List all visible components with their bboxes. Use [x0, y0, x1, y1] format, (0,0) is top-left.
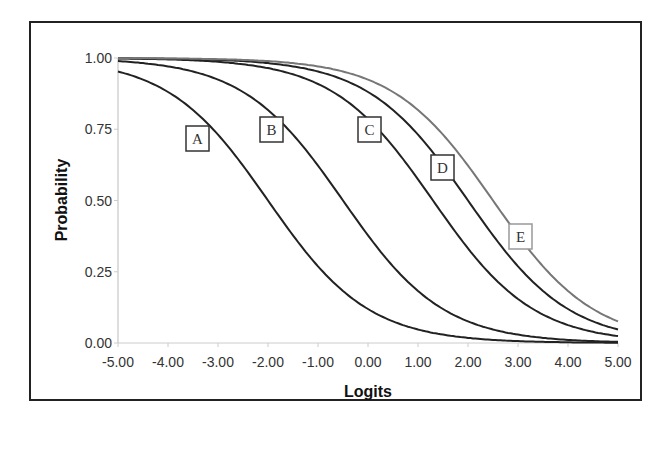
x-tick-label: -3.00: [202, 354, 234, 370]
x-tick-label: 4.00: [554, 354, 581, 370]
x-tick-label: 5.00: [604, 354, 631, 370]
svg-text:D: D: [437, 160, 448, 176]
x-tick-label: 3.00: [504, 354, 531, 370]
svg-text:E: E: [516, 229, 525, 245]
svg-text:C: C: [364, 122, 374, 138]
x-tick-label: 2.00: [454, 354, 481, 370]
x-tick-label: -5.00: [102, 354, 134, 370]
curve-label-b: B: [260, 117, 283, 142]
curve-label-d: D: [431, 155, 454, 180]
y-tick-label: 0.75: [85, 121, 112, 137]
x-tick-label: -4.00: [152, 354, 184, 370]
x-tick-label: -1.00: [302, 354, 334, 370]
curve-label-c: C: [358, 117, 381, 142]
x-tick-label: 0.00: [354, 354, 381, 370]
curve-label-e: E: [509, 224, 532, 249]
x-tick-label: 1.00: [404, 354, 431, 370]
y-tick-label: 1.00: [85, 50, 112, 66]
y-tick-label: 0.25: [85, 264, 112, 280]
x-tick-label: -2.00: [252, 354, 284, 370]
svg-text:A: A: [192, 131, 203, 147]
y-axis-title: Probability: [53, 159, 70, 242]
probability-curves-chart: -5.00-4.00-3.00-2.00-1.000.001.002.003.0…: [0, 0, 662, 451]
curve-label-a: A: [186, 126, 209, 151]
svg-text:B: B: [266, 122, 276, 138]
y-tick-label: 0.00: [85, 335, 112, 351]
x-axis-title: Logits: [344, 383, 392, 400]
y-tick-label: 0.50: [85, 193, 112, 209]
